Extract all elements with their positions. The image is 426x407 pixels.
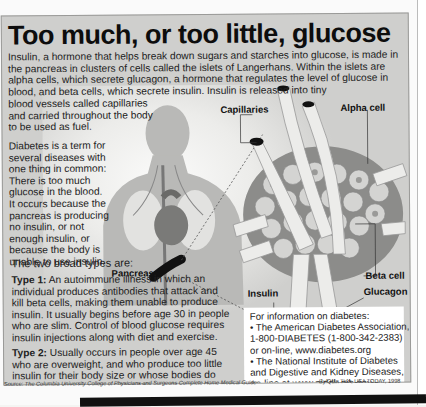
type-1-label: Type 1:	[12, 274, 47, 285]
info-line: 1-800-DIABETES (1-800-342-2383)	[250, 332, 398, 344]
source-prefix: Source:	[4, 381, 25, 387]
label-capillaries: Capillaries	[220, 104, 268, 115]
label-insulin: Insulin	[248, 287, 279, 298]
intro-paragraph-continued: blood vessels called capillaries and car…	[8, 97, 158, 133]
label-alpha-cell: Alpha cell	[340, 102, 385, 113]
intro-paragraph: Insulin, a hormone that helps break down…	[8, 49, 404, 98]
page-edge	[417, 0, 426, 405]
islet-illustration	[232, 85, 408, 319]
label-beta-cell: Beta cell	[365, 270, 404, 281]
infographic-panel: Too much, or too little, glucose Insulin…	[1, 13, 412, 386]
page-title: Too much, or too little, glucose	[8, 18, 391, 52]
diabetes-definition: Diabetes is a term for several diseases …	[9, 140, 110, 268]
types-heading: The two broad types are:	[11, 257, 133, 270]
byline: By Quin Tian, USA TODAY, 1998	[319, 378, 400, 385]
label-glucagon: Glucagon	[364, 286, 408, 297]
info-box: For information on diabetes: • The Ameri…	[244, 307, 405, 386]
info-line: and Digestive and Kidney Diseases,	[250, 366, 398, 378]
type-2-label: Type 2:	[12, 347, 47, 358]
type-1-description: Type 1: An autoimmune illness in which a…	[12, 273, 232, 344]
